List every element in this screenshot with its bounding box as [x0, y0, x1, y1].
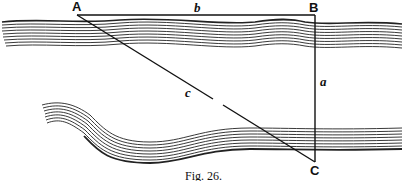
- triangle-lines: [77, 15, 315, 162]
- river-bank-lower: [42, 103, 402, 163]
- segment-c-part2: [223, 105, 315, 162]
- segment-label-b: b: [194, 1, 201, 14]
- point-label-c: C: [310, 164, 319, 177]
- point-label-b: B: [309, 1, 318, 14]
- river-triangulation-diagram: [0, 0, 410, 181]
- segment-c-part1: [77, 15, 213, 99]
- figure-caption: Fig. 26.: [185, 170, 222, 181]
- segment-label-a: a: [320, 75, 327, 88]
- river-bank-upper: [2, 19, 402, 48]
- segment-label-c: c: [185, 86, 191, 99]
- point-label-a: A: [72, 0, 81, 13]
